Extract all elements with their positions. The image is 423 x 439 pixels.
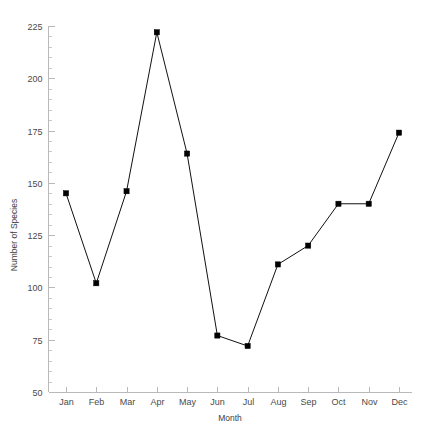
x-axis-tick-label: Apr xyxy=(150,397,164,407)
data-point-marker: Jun: 77 xyxy=(215,333,220,338)
x-axis-tick-label: Dec xyxy=(391,397,408,407)
data-point-marker: May: 164 xyxy=(184,151,189,156)
y-axis-title: Number of Species xyxy=(9,199,19,271)
y-axis-tick-label: 225 xyxy=(27,22,42,32)
data-point-marker: Jan: 145 xyxy=(63,191,68,196)
data-point-marker: Oct: 140 xyxy=(336,201,341,206)
data-point-marker: Jul: 72 xyxy=(245,343,250,348)
y-axis-tick-label: 75 xyxy=(32,336,42,346)
x-axis-tick-label: Jan xyxy=(59,397,74,407)
chart-canvas: 5075100125150175200225 Number of Species… xyxy=(0,0,423,439)
y-axis-tick-label: 150 xyxy=(27,179,42,189)
x-axis-tick-label: Oct xyxy=(331,397,346,407)
data-point-marker: Nov: 140 xyxy=(366,201,371,206)
x-axis-tick-label: Aug xyxy=(270,397,286,407)
data-point-marker: Apr: 222 xyxy=(154,30,159,35)
x-axis-tick-label: Nov xyxy=(361,397,378,407)
x-axis-tick-label: Jun xyxy=(210,397,225,407)
x-axis-tick-label: Feb xyxy=(89,397,105,407)
y-axis-tick-label: 100 xyxy=(27,283,42,293)
y-axis-tick-label: 125 xyxy=(27,231,42,241)
x-axis-tick-label: Jul xyxy=(243,397,255,407)
x-axis-title: Month xyxy=(218,413,242,423)
x-axis-tick-label: May xyxy=(179,397,197,407)
data-point-marker: Feb: 102 xyxy=(94,281,99,286)
x-axis-tick-label: Sep xyxy=(300,397,316,407)
y-axis-tick-label: 50 xyxy=(32,388,42,398)
y-axis-tick-label: 175 xyxy=(27,127,42,137)
line-chart: 5075100125150175200225 Number of Species… xyxy=(0,0,423,439)
data-point-marker: Sep: 120 xyxy=(306,243,311,248)
x-axis-tick-label: Mar xyxy=(120,397,136,407)
y-axis-tick-label: 200 xyxy=(27,74,42,84)
data-point-marker: Dec: 174 xyxy=(396,130,401,135)
data-point-marker: Aug: 111 xyxy=(275,262,280,267)
data-point-marker: Mar: 146 xyxy=(124,189,129,194)
chart-background xyxy=(0,0,423,439)
